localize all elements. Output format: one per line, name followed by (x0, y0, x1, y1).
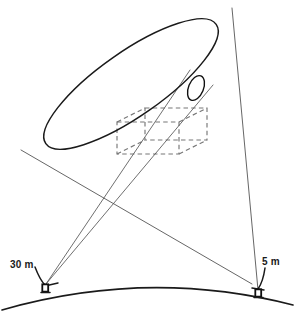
right-antenna-group (252, 268, 265, 298)
dish-aperture-ellipse (27, 0, 234, 170)
box-edge-tl (117, 108, 145, 122)
left-antenna-hook (35, 267, 45, 285)
feed-horn-ellipse (184, 73, 208, 103)
box-edge-bl (117, 140, 145, 154)
box-back-face (145, 108, 207, 140)
box-edge-br (179, 140, 207, 154)
dashed-wireframe-box (117, 108, 207, 154)
beam-ray-upper (46, 85, 213, 284)
telescope-geometry-diagram (0, 0, 295, 316)
right-antenna-hook (258, 268, 265, 289)
label-right-antenna: 5 m (262, 256, 280, 267)
diagram-canvas: 30 m 5 m (0, 0, 295, 316)
crossing-sight-line (21, 150, 252, 284)
label-left-antenna: 30 m (10, 259, 34, 270)
boresight-line-right (232, 8, 258, 290)
